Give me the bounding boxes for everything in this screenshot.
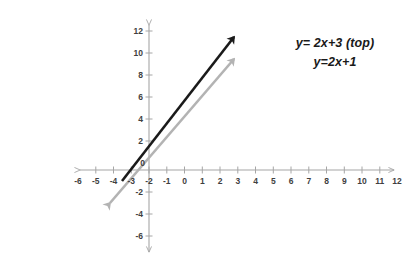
x-tick-label: -3 — [128, 177, 136, 186]
y-tick-label: 8 — [138, 71, 143, 80]
x-tick-label: -5 — [92, 177, 100, 186]
y-tick-label: 4 — [138, 115, 143, 124]
x-tick-label: -4 — [110, 177, 118, 186]
x-tick-label: -2 — [145, 177, 153, 186]
x-tick-label: 1 — [200, 177, 205, 186]
x-tick-label: 6 — [289, 177, 294, 186]
legend-line-bottom: y=2x+1 — [262, 53, 408, 72]
y-tick-label: -2 — [135, 188, 143, 197]
x-tick-label: 2 — [218, 177, 223, 186]
x-tick-label: 9 — [342, 177, 347, 186]
equation-legend: y= 2x+3 (top) y=2x+1 — [262, 34, 408, 73]
y-axis — [146, 25, 153, 252]
y-tick-label: 12 — [134, 27, 143, 36]
y-tick-label: -6 — [135, 232, 143, 241]
x-tick-label: 0 — [182, 177, 187, 186]
legend-line-top: y= 2x+3 (top) — [262, 34, 408, 53]
x-tick-label: 10 — [357, 177, 366, 186]
y-tick-label: 10 — [134, 49, 143, 58]
x-tick-label: 3 — [235, 177, 240, 186]
x-tick-label: -6 — [74, 177, 82, 186]
x-tick-label: 11 — [375, 177, 384, 186]
x-tick-label: 5 — [271, 177, 276, 186]
x-tick-label: 8 — [324, 177, 329, 186]
y-tick-label: 2 — [138, 137, 143, 146]
x-tick-label: -1 — [163, 177, 171, 186]
y-origin-label: 0 — [140, 159, 145, 168]
y-tick-label: -4 — [135, 210, 143, 219]
x-tick-label: 7 — [306, 177, 311, 186]
x-tick-label: 12 — [392, 177, 401, 186]
x-tick-label: 4 — [253, 177, 258, 186]
y-tick-label: 6 — [138, 93, 143, 102]
series-line-y-2x-plus-3 — [122, 37, 234, 181]
chart-canvas: -6 -5 -4 -3 -2 -1 0 1 2 3 4 5 6 7 8 9 10… — [0, 0, 414, 270]
